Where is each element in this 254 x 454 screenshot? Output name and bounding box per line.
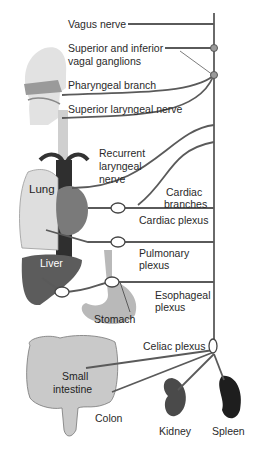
label-small-intestine-line1: Small: [62, 370, 88, 382]
pulmonary-plexus-node: [111, 237, 125, 247]
label-celiac-plexus: Celiac plexus: [143, 340, 205, 352]
kidney-illustration: [164, 378, 186, 416]
label-esophageal-line1: Esophageal: [155, 289, 210, 301]
label-pulmonary-line1: Pulmonary: [139, 247, 189, 259]
label-ganglia-line1: Superior and inferior: [68, 42, 163, 54]
celiac-plexus-node: [209, 339, 217, 353]
label-superior-laryngeal: Superior laryngeal nerve: [68, 103, 182, 115]
vagus-diagram-canvas: [0, 0, 254, 454]
label-spleen: Spleen: [212, 425, 245, 437]
label-ganglia-line2: vagal ganglions: [68, 55, 141, 67]
label-pharyngeal-branch: Pharyngeal branch: [68, 79, 156, 91]
label-recurrent-line3: nerve: [99, 173, 125, 185]
label-recurrent-line2: laryngeal: [99, 160, 142, 172]
label-cardiac-plexus: Cardiac plexus: [139, 214, 208, 226]
label-small-intestine-line2: intestine: [53, 383, 92, 395]
label-cardiac-branches-line2: branches: [164, 198, 207, 210]
superior-ganglion: [211, 45, 218, 52]
esophageal-plexus-node: [105, 277, 119, 287]
label-cardiac-branches-line1: Cardiac: [166, 186, 202, 198]
heart-illustration: [56, 186, 88, 235]
liver-plexus-node: [55, 287, 69, 297]
label-pulmonary-line2: plexus: [139, 259, 169, 271]
cardiac-plexus-node: [111, 203, 125, 213]
label-liver: Liver: [40, 257, 63, 269]
inferior-ganglion: [211, 72, 218, 79]
spleen-illustration: [219, 376, 241, 418]
label-lung: Lung: [29, 183, 55, 195]
lung-illustration: [20, 170, 58, 250]
label-kidney: Kidney: [159, 425, 191, 437]
label-colon: Colon: [95, 412, 122, 424]
label-esophageal-line2: plexus: [155, 301, 185, 313]
label-stomach: Stomach: [94, 313, 135, 325]
label-recurrent-line1: Recurrent: [99, 147, 145, 159]
label-vagus-nerve: Vagus nerve: [68, 18, 126, 30]
